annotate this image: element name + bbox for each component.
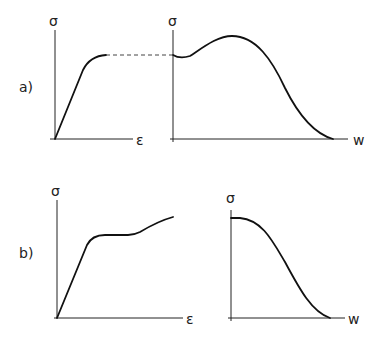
stress-strain-curve (55, 55, 106, 139)
epsilon-label: ε (186, 311, 194, 327)
stress-opening-curve (173, 36, 333, 139)
sigma-label: σ (168, 13, 177, 29)
panel-b-label: b) (19, 245, 33, 261)
w-label: w (348, 311, 359, 327)
panel-a-opening-plot: σ w (168, 13, 364, 148)
panel-b-opening-plot: σ w (226, 190, 359, 327)
panel-b-strain-plot: σ ε (51, 183, 194, 327)
stress-strain-curve (57, 217, 173, 318)
sigma-label: σ (226, 190, 235, 206)
diagram-canvas: σ ε σ w a) σ ε σ w b) (0, 0, 380, 338)
stress-opening-curve (231, 218, 330, 318)
panel-a-strain-plot: σ ε (49, 13, 144, 148)
epsilon-label: ε (136, 132, 144, 148)
sigma-label: σ (49, 13, 58, 29)
w-label: w (353, 132, 364, 148)
panel-a-label: a) (19, 79, 33, 95)
sigma-label: σ (51, 183, 60, 199)
